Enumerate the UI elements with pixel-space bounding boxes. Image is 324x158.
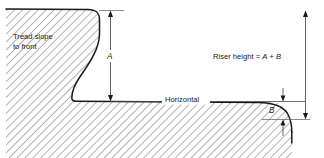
dimension-b-label: B: [269, 106, 275, 115]
section-hatching: [0, 0, 324, 158]
dimension-a: A: [99, 11, 124, 102]
dimension-a-arrow-top: [108, 11, 113, 18]
dimension-riser-height: [303, 11, 308, 120]
dimension-riser-height-arrow-top: [303, 11, 308, 18]
diagram-container: Horizontal A B: [0, 0, 324, 158]
horizontal-label: Horizontal: [165, 95, 199, 104]
tread-riser-body: [0, 0, 324, 158]
dimension-riser-height-arrow-bottom: [303, 113, 308, 120]
stair-profile-diagram: Horizontal A B: [0, 0, 324, 158]
dimension-a-arrow-bottom: [108, 95, 113, 102]
dimension-a-label: A: [106, 52, 113, 61]
riser-height-annotation: Riser height = A + B: [213, 52, 281, 61]
riser-height-term-b: B: [276, 52, 281, 61]
dimension-b-arrow-top: [281, 96, 286, 102]
annotation-riser-height: Riser height = A + B: [213, 52, 281, 61]
tread-slope-label-line1: Tread slope: [13, 32, 53, 41]
riser-height-operator: +: [267, 52, 276, 61]
riser-height-prefix: Riser height =: [213, 52, 262, 61]
tread-slope-label-line2: to front: [13, 42, 38, 51]
